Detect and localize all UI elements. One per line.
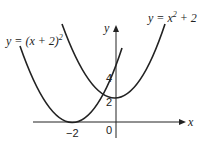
tick-4: 4	[106, 72, 112, 84]
curve-x-plus-2-squared	[20, 46, 122, 123]
tick-0: 0	[106, 124, 112, 136]
tick-neg2: −2	[66, 127, 79, 139]
y-axis-label: y	[103, 21, 110, 35]
y-axis-arrow-icon	[113, 25, 119, 32]
curve1-label: y = (x + 2)2	[5, 33, 63, 48]
curve2-label: y = x2 + 2	[147, 10, 197, 25]
x-axis-label: x	[187, 115, 194, 129]
x-axis-arrow-icon	[179, 119, 186, 125]
curve-x-squared-plus-2	[62, 24, 165, 98]
graph: −2 0 2 4 x y y = (x + 2)2 y = x2 + 2	[0, 0, 202, 143]
tick-2: 2	[106, 96, 112, 108]
